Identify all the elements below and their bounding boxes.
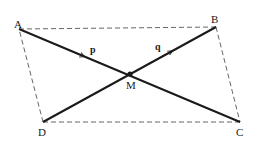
label-vector-p: p (90, 44, 96, 55)
point-m-dot (127, 71, 132, 76)
parallelogram-diagram: A B C D M p q (0, 0, 259, 146)
vector-p-arrow-icon (70, 51, 84, 57)
label-m: M (126, 79, 136, 91)
side-ab (19, 27, 216, 29)
label-d: D (38, 126, 46, 138)
label-c: C (236, 126, 243, 138)
vector-q-arrow-icon (160, 51, 172, 58)
label-b: B (211, 13, 218, 25)
side-da (19, 29, 43, 122)
label-a: A (14, 18, 22, 30)
side-bc (216, 27, 240, 122)
label-vector-q: q (155, 41, 161, 52)
